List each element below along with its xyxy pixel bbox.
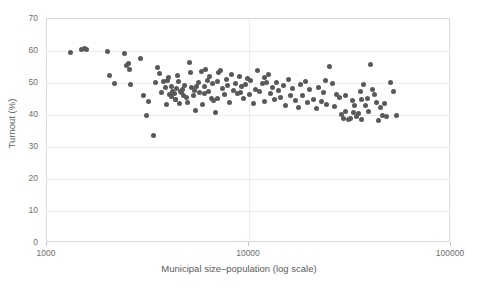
data-point [321,90,326,95]
data-point [185,100,190,105]
data-point [270,85,275,90]
data-point [337,95,342,100]
data-point [343,93,348,98]
data-point [316,85,321,90]
plot-area [46,18,450,242]
data-point [303,79,308,84]
scatter-chart-figure: Municipal size–population (log scale) Tu… [0,0,478,287]
data-point [164,102,169,107]
data-point [262,75,267,80]
data-point [311,97,316,102]
data-point [257,89,262,94]
data-point [286,77,291,82]
x-tick-mark [248,242,249,246]
data-point [361,82,366,87]
y-tick-label: 60 [0,45,38,55]
data-point [238,90,243,95]
data-point [391,89,396,94]
data-point [384,114,389,119]
x-tick-label: 1000 [6,248,86,258]
y-gridline [47,147,449,148]
data-point [159,90,164,95]
data-point [251,101,256,106]
data-point [138,56,143,61]
data-point [290,86,295,91]
y-tick-label: 40 [0,109,38,119]
data-point [388,80,393,85]
data-point [382,101,387,106]
data-point [372,92,377,97]
data-point [233,81,238,86]
data-point [262,99,267,104]
data-point [200,102,205,107]
data-point [172,91,177,96]
data-point [222,92,227,97]
data-point [356,111,361,116]
data-point [272,97,277,102]
y-gridline [47,211,449,212]
data-point [196,80,201,85]
data-point [203,67,208,72]
data-point [278,95,283,100]
x-tick-mark [450,242,451,246]
data-point [191,93,196,98]
data-point [358,89,363,94]
data-point [207,74,212,79]
data-point [352,103,357,108]
data-point [218,68,223,73]
data-point [370,87,375,92]
data-point [365,96,370,101]
data-point [241,96,246,101]
data-point [366,109,371,114]
x-gridline [249,19,250,241]
data-point [202,91,207,96]
data-point [166,75,171,80]
data-point [307,87,312,92]
data-point [314,106,319,111]
y-tick-label: 30 [0,141,38,151]
data-point [215,79,220,84]
data-point [153,80,158,85]
data-point [157,71,162,76]
data-point [274,80,279,85]
data-point [324,102,329,107]
x-tick-label: 100000 [410,248,478,258]
data-point [305,100,310,105]
y-tick-label: 20 [0,173,38,183]
data-point [229,72,234,77]
data-point [127,67,132,72]
data-point [374,100,379,105]
data-point [163,85,168,90]
data-point [215,96,220,101]
x-axis-title: Municipal size–population (log scale) [0,263,478,274]
data-point [327,64,332,69]
y-gridline [47,179,449,180]
data-point [177,101,182,106]
data-point [68,50,73,55]
data-point [112,81,117,86]
data-point [224,77,229,82]
data-point [276,88,281,93]
data-point [359,97,364,102]
data-point [359,117,364,122]
y-tick-label: 10 [0,205,38,215]
data-point [264,80,269,85]
data-point [296,105,301,110]
data-point [247,92,252,97]
data-point [298,82,303,87]
data-point [126,61,131,66]
data-point [323,78,328,83]
data-point [376,118,381,123]
data-point [146,99,151,104]
data-point [107,73,112,78]
data-point [202,84,207,89]
data-point [300,93,305,98]
data-point [348,116,353,121]
data-point [84,47,89,52]
data-point [255,68,260,73]
data-point [237,74,242,79]
data-point [281,83,286,88]
data-point [293,98,298,103]
y-tick-label: 0 [0,237,38,247]
data-point [368,62,373,67]
